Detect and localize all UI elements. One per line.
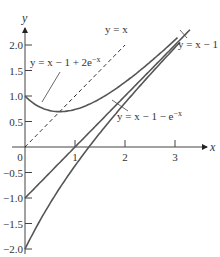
y-tick-label: 1.5 bbox=[9, 65, 23, 77]
label-y-eq-x: y = x bbox=[105, 23, 128, 35]
label-y-eq-x-minus-1: y = x − 1 bbox=[178, 38, 218, 50]
x-tick-label: 3 bbox=[172, 151, 178, 163]
chart: xy12302.01.51.00.5−0.5−1.0−1.5−2.0y = xy… bbox=[0, 0, 220, 257]
x-axis-label: x bbox=[209, 140, 216, 154]
y-tick-label: −1.5 bbox=[3, 218, 23, 230]
label-y-eq-x-minus-1-plus-2e: y = x − 1 + 2e−x bbox=[30, 55, 101, 68]
x-tick-label: 2 bbox=[122, 151, 128, 163]
curve-4 bbox=[25, 42, 180, 249]
y-tick-label: 2.0 bbox=[9, 39, 23, 51]
curve-2 bbox=[25, 38, 178, 112]
y-tick-label: 0.5 bbox=[9, 116, 23, 128]
leader-line bbox=[42, 72, 60, 102]
origin-label: 0 bbox=[17, 151, 23, 163]
x-tick-label: 1 bbox=[72, 151, 78, 163]
y-tick-label: 1.0 bbox=[9, 90, 23, 102]
labels: xy12302.01.51.00.5−0.5−1.0−1.5−2.0y = xy… bbox=[3, 11, 218, 255]
y-tick-label: −1.0 bbox=[3, 192, 23, 204]
chart-canvas: xy12302.01.51.00.5−0.5−1.0−1.5−2.0y = xy… bbox=[0, 0, 220, 257]
y-axis-label: y bbox=[21, 11, 28, 25]
y-tick-label: −2.0 bbox=[3, 243, 23, 255]
y-tick-label: −0.5 bbox=[3, 167, 23, 179]
label-y-eq-x-minus-1-minus-e: y = x − 1 − e−x bbox=[117, 109, 182, 122]
